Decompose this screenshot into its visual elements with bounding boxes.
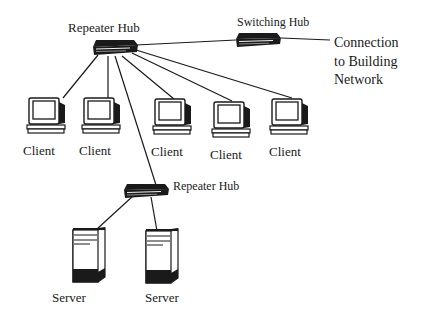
building-network-connection-label: Connection to Building Network (334, 34, 399, 90)
connection-line-3: Network (334, 71, 399, 90)
server-label: Server (52, 290, 86, 306)
switching-hub-label: Switching Hub (237, 14, 309, 30)
monitor-icon (269, 97, 313, 139)
client-label: Client (79, 143, 111, 159)
monitor-icon (26, 96, 70, 138)
server-tower-icon (143, 228, 181, 286)
hub-icon (90, 38, 140, 58)
server-label: Server (145, 290, 179, 306)
top-repeater-hub-label: Repeater Hub (68, 20, 140, 36)
connection-line-2: to Building (334, 53, 399, 72)
client-label: Client (210, 147, 242, 163)
lower-repeater-hub-label: Repeater Hub (173, 178, 239, 194)
switch-icon (233, 31, 283, 50)
monitor-icon (211, 100, 255, 142)
connection-line-1: Connection (334, 34, 399, 53)
monitor-icon (152, 97, 196, 139)
monitor-icon (81, 96, 125, 138)
client-label: Client (151, 144, 183, 160)
client-label: Client (269, 144, 301, 160)
client-label: Client (23, 143, 55, 159)
server-tower-icon (70, 227, 108, 285)
hub-icon (121, 182, 171, 201)
